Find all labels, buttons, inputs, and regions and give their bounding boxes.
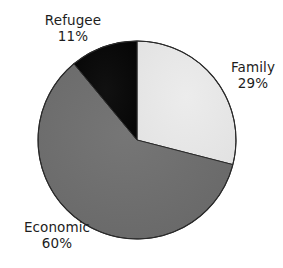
pie-chart: Refugee 11% Family 29% Economic 60% <box>0 0 283 268</box>
pie-label-family-name: Family <box>223 60 283 76</box>
pie-label-family: Family 29% <box>223 60 283 91</box>
pie-label-refugee-name: Refugee <box>33 13 113 29</box>
pie-label-economic-value: 60% <box>8 236 106 252</box>
pie-label-refugee-value: 11% <box>33 29 113 45</box>
pie-label-economic-name: Economic <box>8 220 106 236</box>
pie-label-refugee: Refugee 11% <box>33 13 113 44</box>
pie-label-family-value: 29% <box>223 76 283 92</box>
pie-label-economic: Economic 60% <box>8 220 106 251</box>
